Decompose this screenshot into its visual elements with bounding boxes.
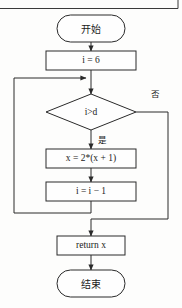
node-end[interactable]: 结束 [57,270,125,297]
node-start[interactable]: 开始 [57,15,125,42]
node-decision-label: i>d [85,107,98,117]
node-decision[interactable]: i>d [46,94,136,130]
node-body2-label: i = i − 1 [76,186,106,196]
node-return[interactable]: return x [57,236,125,255]
node-end-label: 结束 [81,278,101,290]
flowchart-canvas: 开始 i = 6 i>d x = 2*(x + 1) i = i − 1 ret… [0,0,182,308]
node-init-label: i = 6 [82,55,100,65]
edge-label-yes: 是 [98,135,107,145]
node-body1[interactable]: x = 2*(x + 1) [46,149,136,168]
connector-decision-no-to-return [91,112,168,236]
flowchart-svg: 开始 i = 6 i>d x = 2*(x + 1) i = i − 1 ret… [0,0,182,308]
node-init[interactable]: i = 6 [46,51,136,70]
node-return-label: return x [76,240,106,250]
page-frame-fragment [0,0,178,9]
edge-label-no: 否 [151,89,160,99]
node-body2[interactable]: i = i − 1 [46,182,136,201]
node-body1-label: x = 2*(x + 1) [66,153,116,164]
node-start-label: 开始 [81,23,101,35]
